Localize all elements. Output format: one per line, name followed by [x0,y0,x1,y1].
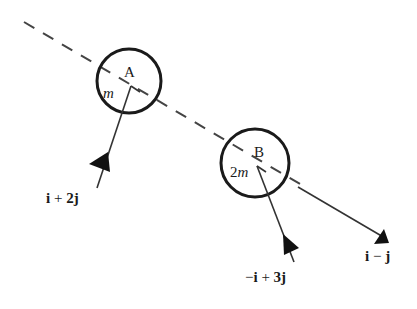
particle-a-label: A [124,65,135,80]
result-vector-arrowhead [374,229,389,244]
velocity-b-j: 3j [274,269,287,285]
velocity-b-arrowhead [283,234,299,255]
diagram-canvas [0,0,417,309]
result-vector-i: i [365,248,369,264]
velocity-b-label: −i + 3j [245,270,286,285]
collision-diagram: A m B 2m i + 2j −i + 3j i − j [0,0,417,309]
velocity-a-i: i [46,190,50,206]
particle-a-circle [97,49,161,113]
velocity-a-op: + [54,190,62,206]
result-vector-line [298,187,385,238]
velocity-a-arrowhead [89,152,110,172]
particle-b-mass-coefficient: 2 [230,164,238,180]
velocity-a-label: i + 2j [46,191,79,206]
result-vector-j: j [385,248,390,264]
velocity-b-i: i [253,269,257,285]
result-vector-label: i − j [365,249,390,264]
velocity-a-line [97,86,131,188]
particle-a-mass-label: m [103,86,114,101]
velocity-a-j: 2j [66,190,79,206]
velocity-b-op: + [261,269,269,285]
particle-b-label: B [254,145,264,160]
particle-b-mass-label: 2m [230,165,248,180]
particle-b-circle [221,129,289,197]
particle-b-mass-symbol: m [238,164,249,180]
result-vector-op: − [373,248,381,264]
